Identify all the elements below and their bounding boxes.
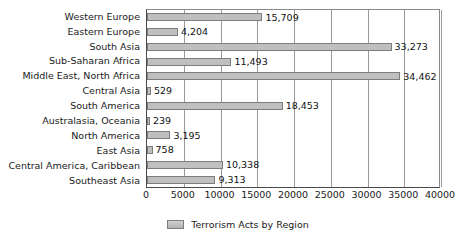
bar-row: 3,195 [147, 128, 439, 143]
x-tick-label: 15000 [241, 190, 271, 200]
bar [147, 87, 151, 95]
bar-chart: Western EuropeEastern EuropeSouth AsiaSu… [0, 0, 476, 241]
category-label: Eastern Europe [67, 27, 140, 37]
category-label-row: South Asia [0, 39, 144, 54]
x-tick-label: 10000 [204, 190, 234, 200]
category-label-row: Southeast Asia [0, 173, 144, 188]
bar-row: 11,493 [147, 54, 439, 69]
category-label: Australasia, Oceania [42, 116, 140, 126]
category-label-row: East Asia [0, 143, 144, 158]
bar [147, 161, 223, 169]
category-label: South America [70, 101, 140, 111]
bar-row: 10,338 [147, 158, 439, 173]
bar [147, 102, 283, 110]
bar-value-label: 11,493 [234, 57, 267, 67]
bars-layer: 15,7094,20433,27311,49334,46252918,45323… [147, 10, 439, 187]
bar [147, 176, 215, 184]
category-label: Sub-Saharan Africa [49, 56, 140, 66]
bar-row: 15,709 [147, 10, 439, 25]
category-label: Western Europe [65, 12, 140, 22]
category-label-row: Western Europe [0, 9, 144, 24]
category-axis: Western EuropeEastern EuropeSouth AsiaSu… [0, 9, 144, 188]
bar [147, 28, 178, 36]
bar-value-label: 10,338 [226, 160, 259, 170]
legend-label-terrorism-acts: Terrorism Acts by Region [191, 220, 309, 230]
bar-row: 529 [147, 84, 439, 99]
bar-row: 758 [147, 143, 439, 158]
bar-row: 4,204 [147, 25, 439, 40]
bar-row: 18,453 [147, 99, 439, 114]
x-tick-label: 25000 [315, 190, 345, 200]
bar-value-label: 18,453 [286, 101, 319, 111]
bar-value-label: 529 [154, 86, 172, 96]
bar-value-label: 9,313 [218, 175, 245, 185]
plot-area: 15,7094,20433,27311,49334,46252918,45323… [146, 9, 440, 188]
category-label-row: Middle East, North Africa [0, 69, 144, 84]
x-tick-label: 35000 [388, 190, 418, 200]
category-label: Southeast Asia [69, 176, 140, 186]
bar-value-label: 239 [153, 116, 171, 126]
category-label: Central Asia [82, 86, 140, 96]
category-label: Central America, Caribbean [8, 161, 140, 171]
category-label: East Asia [97, 146, 140, 156]
category-label-row: Australasia, Oceania [0, 113, 144, 128]
category-label-row: Central Asia [0, 84, 144, 99]
category-label: South Asia [89, 42, 140, 52]
bar [147, 146, 153, 154]
x-tick-label: 40000 [425, 190, 455, 200]
gridline [441, 10, 442, 187]
category-label-row: Eastern Europe [0, 24, 144, 39]
category-label-row: Central America, Caribbean [0, 158, 144, 173]
bar [147, 58, 231, 66]
bar-value-label: 3,195 [173, 131, 200, 141]
bar [147, 43, 392, 51]
bar-value-label: 33,273 [395, 42, 428, 52]
bar-value-label: 4,204 [181, 27, 208, 37]
bar [147, 131, 170, 139]
category-label-row: North America [0, 128, 144, 143]
bar-row: 34,462 [147, 69, 439, 84]
bar [147, 117, 150, 125]
chart-legend: Terrorism Acts by Region [0, 220, 476, 230]
category-label-row: South America [0, 99, 144, 114]
bar [147, 13, 262, 21]
value-axis: 0500010000150002000025000300003500040000 [146, 190, 440, 204]
category-label: North America [71, 131, 140, 141]
bar-row: 9,313 [147, 172, 439, 187]
x-tick-label: 30000 [351, 190, 381, 200]
category-label: Middle East, North Africa [22, 71, 140, 81]
x-tick-label: 5000 [171, 190, 195, 200]
x-tick-label: 20000 [278, 190, 308, 200]
bar-value-label: 758 [156, 145, 174, 155]
x-tick-label: 0 [143, 190, 149, 200]
category-label-row: Sub-Saharan Africa [0, 54, 144, 69]
bar-value-label: 34,462 [403, 72, 436, 82]
legend-swatch-terrorism-acts [167, 220, 184, 229]
bar-row: 33,273 [147, 40, 439, 55]
bar-value-label: 15,709 [265, 13, 298, 23]
bar [147, 72, 400, 80]
bar-row: 239 [147, 113, 439, 128]
